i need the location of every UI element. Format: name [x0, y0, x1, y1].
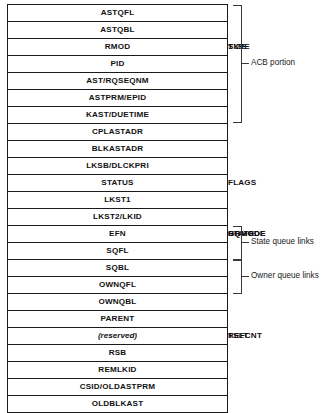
structure-row: OWNQFL: [8, 277, 228, 294]
structure-row: OLDBLKAST: [8, 396, 228, 413]
structure-row: BLKASTADR: [8, 141, 228, 158]
structure-row: AST/RQSEQNM: [8, 73, 228, 90]
structure-row: SQFL: [8, 243, 228, 260]
acb-portion-bracket: [233, 5, 242, 123]
structure-row: CPLASTADR: [8, 124, 228, 141]
acb-portion-label: ACB portion: [251, 59, 295, 67]
structure-field-cell: LKSB/DLCKPRI: [8, 158, 228, 175]
structure-row: PID: [8, 56, 228, 73]
structure-row: STATUSFLAGS: [8, 175, 228, 192]
structure-field-cell: REMLKID: [8, 362, 228, 379]
structure-row: OWNQBL: [8, 294, 228, 311]
structure-field-cell: PID: [8, 56, 228, 73]
structure-field-cell: BLKASTADR: [8, 141, 228, 158]
structure-row: CSID/OLDASTPRM: [8, 379, 228, 396]
structure-field-cell: EFN: [8, 226, 228, 243]
structure-row: RMODTYPESIZE: [8, 39, 228, 56]
structure-field-cell: OWNQBL: [8, 294, 228, 311]
structure-field-table: ASTQFLASTQBLRMODTYPESIZEPIDAST/RQSEQNMAS…: [7, 4, 228, 413]
structure-row: EFNSTATEGRMODERQMODE: [8, 226, 228, 243]
owner-queue-links-bracket-stem: [242, 276, 249, 277]
acb-portion-bracket-stem: [242, 63, 249, 64]
structure-field-cell: RSB: [8, 345, 228, 362]
state-queue-links-bracket-stem: [242, 242, 249, 243]
structure-field-cell: SQFL: [8, 243, 228, 260]
structure-field-cell: ASTPRM/EPID: [8, 90, 228, 107]
owner-queue-links-label: Owner queue links: [251, 272, 319, 280]
structure-row: ASTQFL: [8, 5, 228, 22]
structure-row: ASTQBL: [8, 22, 228, 39]
structure-row: SQBL: [8, 260, 228, 277]
structure-field-cell: AST/RQSEQNM: [8, 73, 228, 90]
structure-row: KAST/DUETIME: [8, 107, 228, 124]
structure-field-cell: PARENT: [8, 311, 228, 328]
structure-field-rows: ASTQFLASTQBLRMODTYPESIZEPIDAST/RQSEQNMAS…: [8, 5, 228, 413]
structure-row: RSB: [8, 345, 228, 362]
owner-queue-links-bracket: [233, 260, 242, 294]
structure-field-cell: CPLASTADR: [8, 124, 228, 141]
state-queue-links-label: State queue links: [251, 238, 314, 246]
structure-field-cell: ASTQBL: [8, 22, 228, 39]
structure-field-cell: LKST1: [8, 192, 228, 209]
structure-field-cell: OLDBLKAST: [8, 396, 228, 413]
structure-field-cell: CSID/OLDASTPRM: [8, 379, 228, 396]
structure-field-cell: SQBL: [8, 260, 228, 277]
structure-field-cell: (reserved): [8, 328, 228, 345]
structure-row: (reserved)TSLTREFCNT: [8, 328, 228, 345]
structure-row: REMLKID: [8, 362, 228, 379]
structure-field-cell: STATUS: [8, 175, 228, 192]
structure-row: LKST2/LKID: [8, 209, 228, 226]
structure-row: PARENT: [8, 311, 228, 328]
structure-row: LKSB/DLCKPRI: [8, 158, 228, 175]
state-queue-links-bracket: [233, 226, 242, 260]
structure-field-cell: LKST2/LKID: [8, 209, 228, 226]
structure-field-cell: KAST/DUETIME: [8, 107, 228, 124]
structure-field-cell: ASTQFL: [8, 5, 228, 22]
structure-row: LKST1: [8, 192, 228, 209]
structure-field-cell: RMOD: [8, 39, 228, 56]
structure-row: ASTPRM/EPID: [8, 90, 228, 107]
structure-field-cell: OWNQFL: [8, 277, 228, 294]
